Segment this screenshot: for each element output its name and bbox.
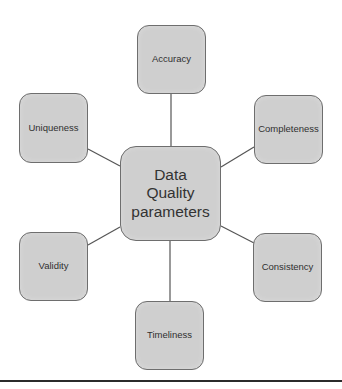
center-node-label: Data Quality parameters: [131, 166, 209, 222]
node-validity: Validity: [19, 232, 88, 301]
data-quality-diagram: Data Quality parameters Accuracy Complet…: [0, 0, 342, 389]
node-timeliness: Timeliness: [135, 301, 204, 370]
center-label-line1: Data: [131, 166, 209, 185]
connector-completeness: [221, 147, 254, 167]
node-timeliness-label: Timeliness: [147, 330, 192, 340]
node-accuracy-label: Accuracy: [152, 54, 191, 64]
center-node-data-quality-parameters: Data Quality parameters: [120, 146, 221, 241]
center-label-line2: Quality: [131, 184, 209, 203]
node-uniqueness-label: Uniqueness: [28, 123, 78, 133]
node-completeness-label: Completeness: [258, 124, 319, 134]
node-accuracy: Accuracy: [137, 25, 206, 94]
node-validity-label: Validity: [39, 261, 69, 271]
node-consistency-label: Consistency: [262, 262, 314, 272]
node-consistency: Consistency: [253, 233, 322, 302]
connector-consistency: [221, 226, 254, 243]
node-completeness: Completeness: [254, 95, 323, 164]
bottom-divider: [0, 380, 342, 382]
connector-uniqueness: [88, 149, 120, 166]
center-label-line3: parameters: [131, 203, 209, 222]
connector-validity: [88, 227, 120, 245]
node-uniqueness: Uniqueness: [19, 93, 88, 163]
